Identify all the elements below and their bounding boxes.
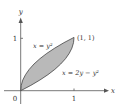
- x-axis-label: x: [111, 87, 115, 95]
- x-tick-label: 1: [72, 95, 76, 103]
- y-axis-arrow-icon: [19, 18, 23, 24]
- point-label: (1, 1): [77, 34, 95, 42]
- curve-label-x-equals-y-squared: x = y²: [33, 42, 53, 50]
- x-axis-arrow-icon: [104, 89, 109, 93]
- curve-label-x-equals-2y-minus-y-squared: x = 2y − y²: [62, 69, 99, 77]
- y-tick-label: 1: [13, 35, 17, 43]
- y-axis-label: y: [18, 8, 24, 16]
- origin-label: 0: [13, 95, 17, 103]
- region-diagram: y x 0 1 1 (1, 1) x = y² x = 2y − y²: [0, 0, 116, 109]
